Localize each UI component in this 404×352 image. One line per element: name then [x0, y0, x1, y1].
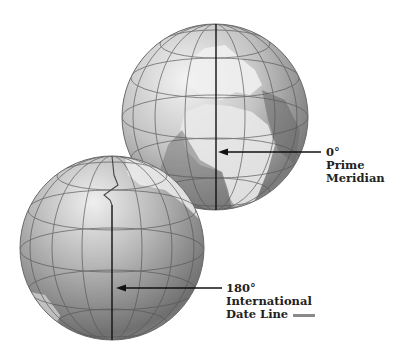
- pacific-hemisphere-globe: [20, 156, 204, 340]
- date-line-label: 180° International Date Line: [226, 282, 315, 321]
- date-line-line2: Date Line: [226, 307, 288, 321]
- prime-meridian-line2: Meridian: [326, 172, 385, 185]
- date-line-legend-swatch: [293, 314, 315, 317]
- prime-meridian-label: 0° Prime Meridian: [326, 146, 385, 185]
